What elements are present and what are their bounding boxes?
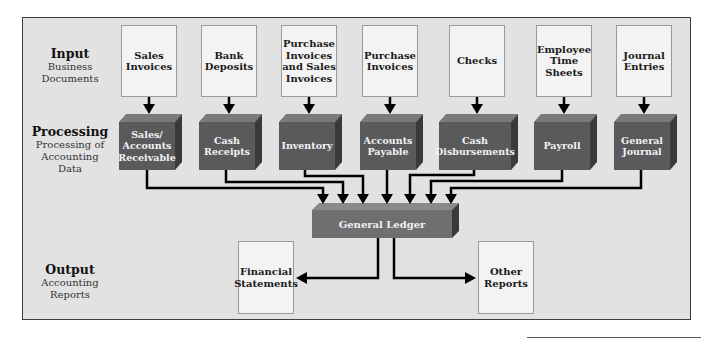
flow-arrows: [0, 0, 714, 338]
